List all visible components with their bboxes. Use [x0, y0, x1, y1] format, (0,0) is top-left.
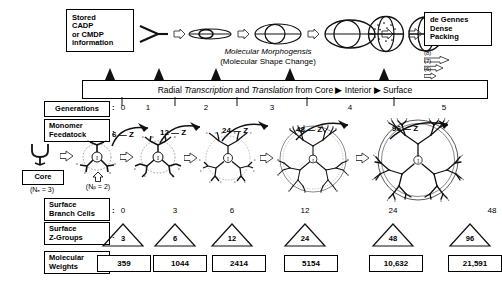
svg-text:z: z [142, 136, 144, 139]
dendrimer-structure-gen3: I zzz zzz zzzz zzzz [198, 132, 258, 184]
branch-multiplicity-arrow [92, 172, 104, 182]
branch-multiplicity-label: (Nᵦ = 2) [76, 183, 120, 191]
core-label: Core [34, 173, 51, 181]
legend-label-8: (8) [424, 50, 431, 56]
z-group-triangle-3: 24 [283, 222, 327, 248]
molecular-weight-value-0: 359 [97, 255, 151, 272]
svg-text:z: z [76, 161, 78, 166]
z-group-triangle-5: 96 [448, 222, 492, 248]
legend-label-7: (7) [424, 58, 431, 64]
molecular-weight-value-4: 10,632 [369, 255, 423, 272]
generation-value-2: 2 [186, 103, 226, 112]
morphogenesis-subtitle: (Molecular Shape Change) [168, 57, 368, 67]
stored-info-line-4: information [72, 39, 133, 47]
svg-text:z: z [254, 158, 256, 162]
stored-information-box: Stored CADP or CMDP information [66, 9, 134, 52]
surface-branch-cells-value-0: 0 [103, 206, 143, 215]
svg-text:z: z [221, 132, 223, 135]
dendrimer-structure-gen1: I zz zz zz [76, 140, 118, 174]
surface-branch-cells-value-4: 24 [373, 206, 413, 215]
de-gennes-line-3: Packing [430, 33, 491, 41]
z-group-value-5: 96 [448, 234, 492, 243]
svg-text:z: z [206, 132, 208, 135]
z-group-value-3: 24 [283, 234, 327, 243]
svg-text:z: z [234, 180, 236, 184]
arrow-core-to-gen1 [60, 150, 74, 162]
surface-branch-cells-line-2: Branch Cells [49, 210, 109, 219]
dendrimer-structure-gen2: I zzzz zz zz [134, 136, 182, 178]
z-group-value-0: 3 [101, 234, 145, 243]
generation-value-5: 5 [424, 103, 464, 112]
arrow-gen2-to-gen3 [184, 152, 198, 164]
dense-packed-sphere [362, 12, 410, 56]
molecular-weight-value-5: 21,591 [448, 255, 502, 272]
surface-branch-cells-value-2: 6 [212, 206, 252, 215]
monomer-feedstock-line-2: Feedatock [49, 131, 109, 140]
band-text: Radial Transcription and Translation fro… [158, 85, 413, 95]
svg-text:z: z [114, 161, 116, 166]
svg-text:z: z [134, 167, 136, 171]
svg-text:I: I [157, 155, 159, 161]
z-group-value-2: 12 [210, 234, 254, 243]
arrow-to-de-gennes [408, 27, 424, 41]
core-structure-gen0 [24, 142, 56, 168]
svg-text:z: z [178, 167, 180, 171]
monomer-feedstock-value-1: 6 — Z [112, 130, 134, 139]
arrow-gen1-to-gen2 [120, 151, 134, 163]
svg-text:z: z [220, 180, 222, 184]
svg-text:z: z [84, 170, 86, 174]
z-group-value-1: 6 [153, 234, 197, 243]
svg-text:z: z [234, 132, 236, 135]
molecular-weight-value-3: 5154 [284, 255, 338, 272]
dendrimer-structure-gen5: I [372, 118, 464, 202]
z-group-triangle-4: 48 [371, 222, 415, 248]
molecular-weight-value-2: 2414 [212, 255, 266, 272]
svg-text:z: z [87, 140, 89, 143]
generation-value-1: 1 [128, 103, 168, 112]
dendrimer-structure-gen4: I [274, 124, 352, 194]
z-group-triangle-0: 3 [101, 222, 145, 248]
surface-branch-cells-value-3: 12 [285, 206, 325, 215]
svg-text:I: I [417, 158, 419, 164]
morphogenesis-title: Molecular Morphogensis [224, 47, 311, 56]
svg-text:z: z [199, 158, 201, 162]
surface-z-groups-line-2: Z-Groups [49, 234, 109, 243]
core-label-box: Core [22, 170, 64, 185]
core-multiplicity-label: (Nₑ = 3) [22, 186, 62, 194]
de-gennes-dense-packing-box: de Gennes Dense Packing [424, 12, 492, 46]
svg-text:z: z [244, 180, 246, 184]
arrow-gen4-to-gen5 [356, 152, 370, 164]
arrow-gen3-to-gen4 [260, 152, 274, 164]
molecular-weight-value-1: 1044 [153, 255, 207, 272]
svg-text:z: z [109, 170, 111, 174]
svg-text:z: z [174, 136, 176, 139]
svg-text:I: I [227, 156, 229, 162]
generation-value-4: 4 [330, 103, 370, 112]
surface-branch-cells-label-box: Surface Branch Cells [44, 198, 110, 221]
svg-text:z: z [250, 132, 252, 135]
svg-text:z: z [144, 174, 146, 178]
z-group-value-4: 48 [371, 234, 415, 243]
surface-branch-cells-value-5: 48 [472, 206, 502, 215]
svg-text:z: z [105, 140, 107, 143]
svg-text:z: z [152, 136, 154, 139]
morphogenesis-caption: Molecular Morphogensis (Molecular Shape … [168, 47, 368, 67]
generation-value-3: 3 [252, 103, 292, 112]
surface-branch-cells-value-1: 3 [155, 206, 195, 215]
z-group-triangle-2: 12 [210, 222, 254, 248]
svg-text:I: I [96, 155, 98, 161]
svg-text:z: z [253, 169, 255, 173]
svg-text:z: z [200, 169, 202, 173]
monomer-feedstock-label-box: Monomer Feedatock [44, 119, 110, 142]
z-group-triangle-1: 6 [153, 222, 197, 248]
